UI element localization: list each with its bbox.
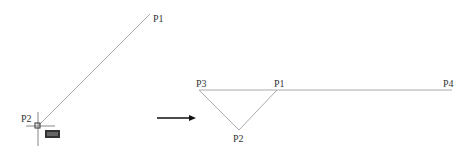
diagram-svg: P1 P2 P3 P1 P2 P4 — [0, 0, 465, 156]
left-label-p2: P2 — [21, 113, 32, 124]
left-label-p1: P1 — [153, 13, 164, 24]
right-label-p4: P4 — [443, 78, 454, 89]
right-label-p3: P3 — [196, 78, 207, 89]
left-line-p2-p1 — [38, 14, 150, 126]
right-label-p2: P2 — [233, 133, 244, 144]
tooltip-box-icon — [45, 130, 60, 138]
right-line-p3-p2 — [199, 90, 239, 130]
right-line-p2-p1 — [239, 90, 277, 130]
right-arrow-icon — [157, 115, 196, 121]
right-label-p1: P1 — [274, 78, 285, 89]
diagram-canvas: P1 P2 P3 P1 P2 P4 — [0, 0, 465, 156]
